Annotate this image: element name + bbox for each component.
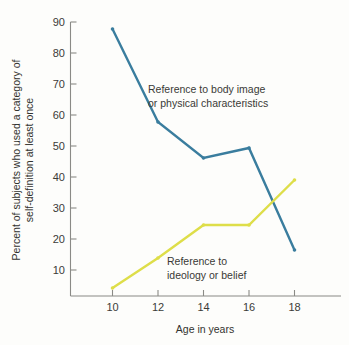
data-point-body-image-10 bbox=[111, 27, 115, 31]
y-tick-label-60: 60 bbox=[53, 109, 65, 121]
y-tick-label-10: 10 bbox=[53, 264, 65, 276]
y-axis-title: Percent of subjects who used a category … bbox=[10, 60, 35, 261]
annotation-ideology: Reference to ideology or belief bbox=[167, 255, 246, 281]
data-point-ideology-14 bbox=[202, 223, 206, 227]
annotation-body-image: Reference to body image or physical char… bbox=[148, 83, 268, 109]
data-point-ideology-10 bbox=[111, 286, 115, 290]
data-point-ideology-18 bbox=[293, 178, 297, 182]
x-tick-label-10: 10 bbox=[106, 301, 118, 313]
series-points-body-image bbox=[111, 27, 297, 252]
annotation-body-image-line2: or physical characteristics bbox=[148, 97, 268, 109]
x-tick-label-12: 12 bbox=[152, 301, 164, 313]
y-tick-label-30: 30 bbox=[53, 202, 65, 214]
y-tick-label-70: 70 bbox=[53, 78, 65, 90]
annotation-body-image-line1: Reference to body image bbox=[148, 83, 265, 95]
y-tick-label-80: 80 bbox=[53, 47, 65, 59]
x-axis-ticks bbox=[113, 290, 295, 296]
line-chart-canvas: 90 80 70 60 50 40 30 20 10 10 12 14 16 1… bbox=[0, 0, 349, 345]
x-axis-tick-labels: 10 12 14 16 18 bbox=[106, 301, 300, 313]
x-tick-label-14: 14 bbox=[197, 301, 209, 313]
series-line-body-image bbox=[113, 29, 295, 250]
x-tick-label-16: 16 bbox=[243, 301, 255, 313]
y-axis-ticks bbox=[71, 22, 77, 270]
annotation-ideology-line1: Reference to bbox=[167, 255, 227, 267]
data-point-ideology-16 bbox=[247, 223, 251, 227]
data-point-body-image-18 bbox=[293, 248, 297, 252]
data-point-body-image-16 bbox=[247, 146, 251, 150]
data-point-body-image-14 bbox=[202, 156, 206, 160]
x-tick-label-18: 18 bbox=[288, 301, 300, 313]
y-axis-title-line1: Percent of subjects who used a category … bbox=[10, 60, 22, 261]
y-tick-label-20: 20 bbox=[53, 233, 65, 245]
y-tick-label-90: 90 bbox=[53, 16, 65, 28]
y-axis-tick-labels: 90 80 70 60 50 40 30 20 10 bbox=[53, 16, 65, 276]
chart-figure: 90 80 70 60 50 40 30 20 10 10 12 14 16 1… bbox=[0, 0, 349, 345]
y-tick-label-40: 40 bbox=[53, 171, 65, 183]
x-axis-title: Age in years bbox=[176, 323, 234, 335]
y-tick-label-50: 50 bbox=[53, 140, 65, 152]
data-point-ideology-12 bbox=[156, 256, 160, 260]
y-axis-title-line2: self-definition at least once bbox=[23, 98, 35, 222]
annotation-ideology-line2: ideology or belief bbox=[167, 269, 246, 281]
data-point-body-image-12 bbox=[156, 120, 160, 124]
